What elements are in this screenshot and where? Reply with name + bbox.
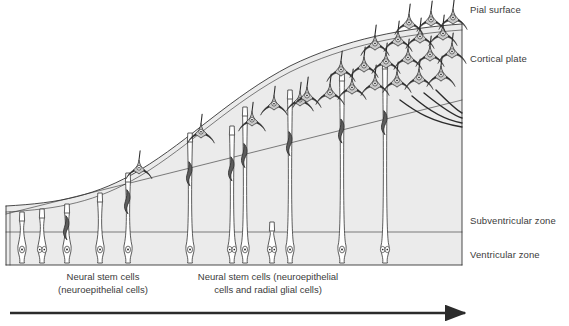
zone-label-pial-surface: Pial surface — [470, 4, 521, 15]
zone-label-ventricular-zone: Ventricular zone — [470, 249, 540, 260]
caption-right: Neural stem cells (neuroepithelial cells… — [168, 271, 368, 296]
caption-right-line-2: cells and radial glial cells) — [168, 284, 368, 297]
zone-label-subventricular-zone: Subventricular zone — [470, 215, 556, 226]
caption-right-line-1: Neural stem cells (neuroepithelial — [168, 271, 368, 284]
zone-label-cortical-plate: Cortical plate — [470, 53, 527, 64]
figure-canvas: Pial surface Cortical plate Subventricul… — [0, 0, 569, 326]
